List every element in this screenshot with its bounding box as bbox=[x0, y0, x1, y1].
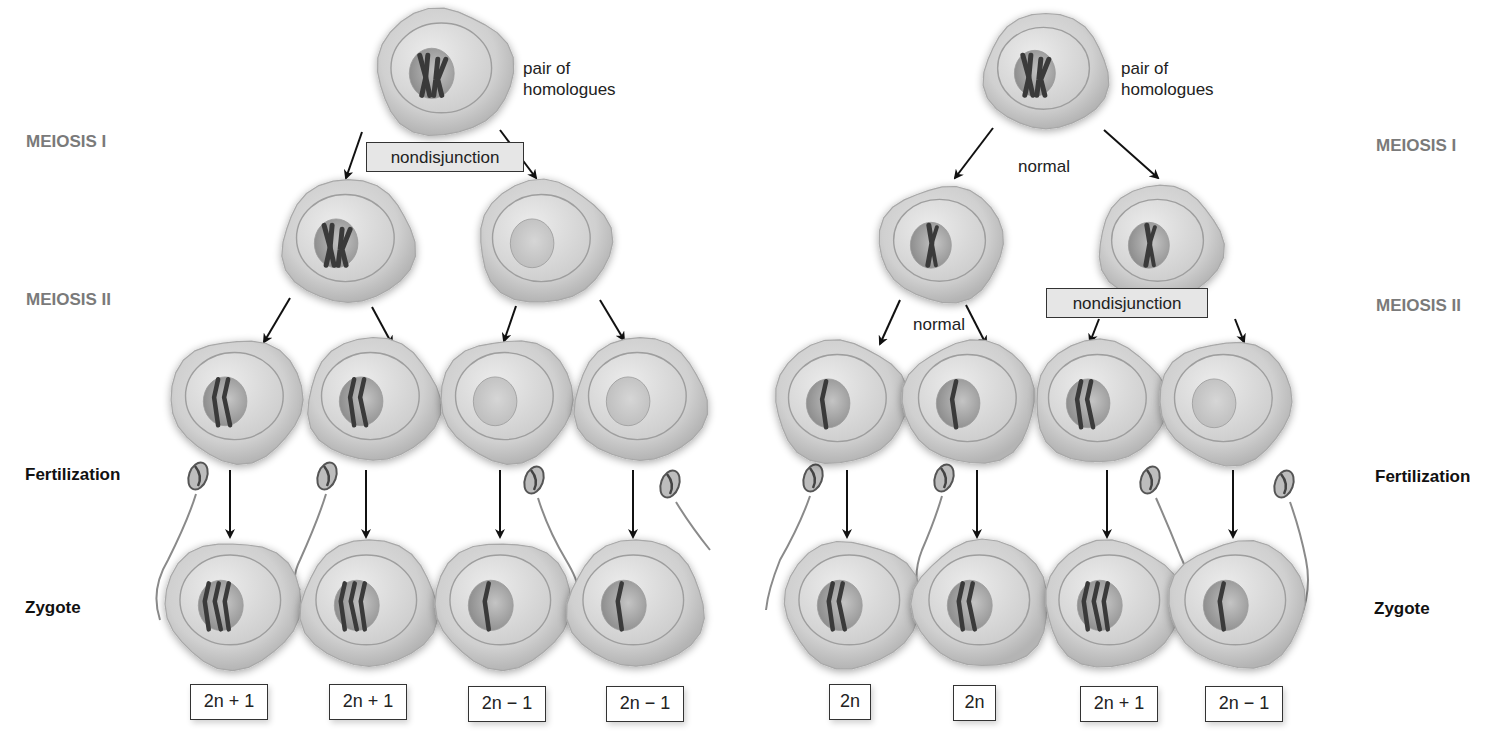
nucleus bbox=[468, 580, 513, 630]
zygote-left-1 bbox=[165, 544, 301, 671]
arrow-m1-left-a bbox=[346, 132, 362, 178]
annotation-line-1: pair of bbox=[1121, 58, 1214, 79]
annotation-pair-of-homologues-left: pair of homologues bbox=[523, 58, 616, 100]
nucleus bbox=[606, 377, 650, 426]
nucleus bbox=[936, 379, 980, 428]
nucleus bbox=[601, 580, 646, 630]
arrow-m2-right-3 bbox=[1090, 319, 1099, 342]
meiosis-1-product-right-2 bbox=[1099, 185, 1224, 300]
cells-layer bbox=[165, 8, 1305, 671]
nucleus bbox=[1192, 379, 1236, 428]
gamete-left-3 bbox=[441, 341, 573, 464]
zygote-right-4 bbox=[1169, 541, 1305, 669]
gamete-right-2 bbox=[902, 340, 1034, 463]
ploidy-box-left-4: 2n − 1 bbox=[606, 686, 684, 722]
label-zygote-right: Zygote bbox=[1374, 599, 1430, 619]
gamete-right-4 bbox=[1160, 342, 1292, 466]
ploidy-box-right-3: 2n + 1 bbox=[1080, 686, 1158, 722]
arrow-m2-left-1 bbox=[264, 298, 290, 342]
gamete-left-4 bbox=[574, 338, 707, 461]
meiosis-1-product-right-1 bbox=[879, 187, 1003, 303]
annotation-line-2: homologues bbox=[1121, 79, 1214, 100]
meiosis-1-product-left-2 bbox=[481, 179, 613, 302]
nucleus bbox=[473, 377, 517, 426]
gamete-right-1 bbox=[776, 340, 908, 464]
label-fertilization-right: Fertilization bbox=[1375, 467, 1470, 487]
normal-label-meiosis-1: normal bbox=[1018, 156, 1070, 177]
zygote-right-3 bbox=[1046, 540, 1182, 667]
label-meiosis-1-left: MEIOSIS I bbox=[26, 132, 106, 152]
normal-label-meiosis-2: normal bbox=[913, 314, 965, 335]
label-meiosis-1-right: MEIOSIS I bbox=[1376, 136, 1456, 156]
zygote-right-2 bbox=[911, 539, 1047, 666]
meiosis-1-product-left-1 bbox=[282, 180, 416, 303]
label-meiosis-2-left: MEIOSIS II bbox=[26, 290, 111, 310]
nucleus bbox=[806, 379, 850, 428]
parent-cell-left bbox=[378, 8, 514, 135]
arrow-m1-right-b bbox=[1104, 130, 1158, 178]
annotation-line-2: homologues bbox=[523, 79, 616, 100]
arrow-m2-left-3 bbox=[504, 306, 516, 341]
arrow-m2-right-2 bbox=[966, 305, 986, 344]
nondisjunction-box-meiosis-2: nondisjunction bbox=[1046, 288, 1208, 318]
ploidy-box-left-2: 2n + 1 bbox=[329, 684, 407, 720]
zygote-right-1 bbox=[784, 542, 920, 669]
gamete-left-1 bbox=[171, 341, 303, 464]
nucleus bbox=[409, 48, 454, 98]
label-meiosis-2-right: MEIOSIS II bbox=[1376, 296, 1461, 316]
annotation-pair-of-homologues-right: pair of homologues bbox=[1121, 58, 1214, 100]
meiosis-nondisjunction-figure: MEIOSIS I MEIOSIS II Fertilization Zygot… bbox=[0, 0, 1511, 746]
nucleus bbox=[314, 219, 358, 268]
arrow-m2-left-4 bbox=[600, 300, 624, 340]
arrow-m1-right-a bbox=[955, 128, 993, 178]
gamete-right-3 bbox=[1037, 339, 1169, 462]
nucleus bbox=[510, 219, 554, 268]
nondisjunction-box-meiosis-1: nondisjunction bbox=[366, 142, 524, 172]
arrow-m2-right-4 bbox=[1235, 319, 1244, 342]
ploidy-box-right-2: 2n bbox=[953, 685, 996, 721]
label-fertilization-left: Fertilization bbox=[25, 465, 120, 485]
arrow-m2-right-1 bbox=[880, 300, 900, 344]
annotation-line-1: pair of bbox=[523, 58, 616, 79]
label-zygote-left: Zygote bbox=[25, 598, 81, 618]
diagram-artwork bbox=[0, 0, 1511, 746]
sperm-left-4 bbox=[657, 468, 710, 550]
nucleus bbox=[1203, 580, 1248, 630]
ploidy-box-left-3: 2n − 1 bbox=[468, 686, 546, 722]
parent-cell-right bbox=[983, 14, 1109, 129]
zygote-left-4 bbox=[567, 540, 705, 666]
zygote-left-2 bbox=[300, 540, 438, 667]
gamete-left-2 bbox=[308, 338, 441, 461]
zygote-left-3 bbox=[435, 544, 571, 671]
ploidy-box-left-1: 2n + 1 bbox=[190, 684, 268, 720]
ploidy-box-right-1: 2n bbox=[829, 684, 871, 720]
ploidy-box-right-4: 2n − 1 bbox=[1205, 686, 1283, 722]
